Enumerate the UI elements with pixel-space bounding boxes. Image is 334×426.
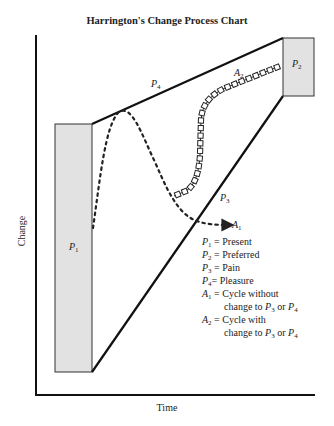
legend-p4: P4= Pleasure [201, 275, 254, 288]
y-axis-label: Change [16, 215, 27, 246]
a2-square-marker [224, 84, 231, 91]
change-process-chart: Harrington's Change Process Chart Time C… [0, 0, 334, 426]
a2-label: A2 [233, 67, 244, 80]
a2-square-marker [197, 156, 203, 162]
a2-square-marker [174, 191, 181, 198]
a2-square-marker [191, 177, 198, 184]
a2-square-marker [198, 118, 203, 123]
a2-square-marker [245, 75, 252, 82]
a2-square-marker [201, 102, 208, 109]
a2-square-marker [260, 69, 267, 76]
p4-pleasure-line [92, 38, 283, 124]
a2-square-marker [194, 170, 200, 176]
a2-square-marker [252, 72, 259, 79]
p4-label: P4 [150, 78, 161, 91]
a2-square-marker [267, 67, 274, 74]
legend-a1: A1 = Cycle without [201, 288, 279, 301]
a2-square-marker [198, 125, 203, 130]
a2-square-marker [197, 148, 202, 153]
a2-square-marker [274, 64, 281, 71]
a2-square-marker [198, 133, 203, 138]
a2-square-marker [196, 163, 202, 169]
legend-p2: P2 = Preferred [201, 249, 259, 262]
p3-label: P3 [219, 192, 230, 205]
legend-a2-cont: change to P3 or P4 [224, 327, 298, 340]
a2-square-marker [199, 110, 205, 116]
x-axis-label: Time [157, 402, 178, 413]
a2-square-marker [181, 188, 188, 195]
legend-a2: A2 = Cycle with [201, 314, 266, 327]
a1-label: A1 [231, 219, 242, 232]
legend: P1 = Present P2 = Preferred P3 = Pain P4… [201, 236, 298, 340]
legend-p1: P1 = Present [201, 236, 252, 249]
a2-square-marker [231, 81, 238, 88]
chart-title: Harrington's Change Process Chart [86, 15, 248, 26]
a1-cycle-path [93, 111, 228, 228]
a2-square-marker [217, 87, 224, 94]
a2-square-marker [198, 141, 203, 146]
legend-a1-cont: change to P3 or P4 [224, 301, 298, 314]
legend-p3: P3 = Pain [201, 262, 240, 275]
